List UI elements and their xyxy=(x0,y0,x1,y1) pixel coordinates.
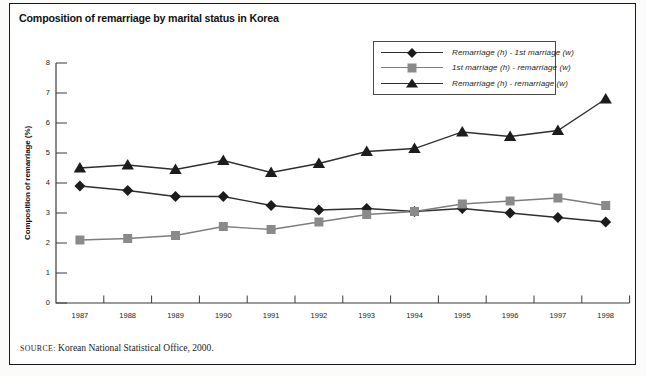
legend-line-sample xyxy=(381,67,443,68)
legend-label: Remarriage (h) - remarriage (w) xyxy=(452,79,568,88)
y-tick-label: 6 xyxy=(30,118,50,128)
source-text: Korean National Statistical Office, 2000… xyxy=(58,343,213,353)
legend-label: Remarriage (h) - 1st marriage (w) xyxy=(452,48,574,57)
legend-label: 1st marriage (h) - remarriage (w) xyxy=(452,63,571,72)
triangle-marker-icon xyxy=(406,79,418,88)
y-tick-label: 4 xyxy=(30,178,50,188)
y-tick-label: 1 xyxy=(30,268,50,278)
x-tick-label: 1997 xyxy=(537,311,579,321)
x-tick-label: 1993 xyxy=(346,311,388,321)
x-tick-label: 1989 xyxy=(155,311,197,321)
y-tick-label: 5 xyxy=(30,148,50,158)
source-note: SOURCE: Korean National Statistical Offi… xyxy=(20,343,214,353)
x-tick-label: 1987 xyxy=(59,311,101,321)
x-tick-label: 1988 xyxy=(107,311,149,321)
x-tick-label: 1995 xyxy=(441,311,483,321)
legend-item-1st-h-remarriage-w: 1st marriage (h) - remarriage (w) xyxy=(381,61,555,75)
legend-item-remarriage-h-remarriage-w: Remarriage (h) - remarriage (w) xyxy=(381,76,555,90)
chart-title: Composition of remarriage by marital sta… xyxy=(19,12,279,24)
y-tick-label: 3 xyxy=(30,208,50,218)
legend-line-sample xyxy=(381,83,443,84)
square-marker-icon xyxy=(408,63,417,72)
x-tick-label: 1990 xyxy=(202,311,244,321)
y-tick-label: 7 xyxy=(30,88,50,98)
y-tick-label: 0 xyxy=(30,298,50,308)
diamond-marker-icon xyxy=(407,48,417,58)
legend-item-remarriage-h-1st-w: Remarriage (h) - 1st marriage (w) xyxy=(381,46,555,60)
y-tick-label: 2 xyxy=(30,238,50,248)
source-prefix: SOURCE: xyxy=(20,344,56,353)
legend: Remarriage (h) - 1st marriage (w) 1st ma… xyxy=(373,41,556,95)
y-tick-label: 8 xyxy=(30,58,50,68)
x-tick-label: 1994 xyxy=(394,311,436,321)
legend-line-sample xyxy=(381,52,443,53)
x-tick-label: 1996 xyxy=(489,311,531,321)
x-tick-label: 1992 xyxy=(298,311,340,321)
x-tick-label: 1998 xyxy=(585,311,627,321)
x-tick-label: 1991 xyxy=(250,311,292,321)
